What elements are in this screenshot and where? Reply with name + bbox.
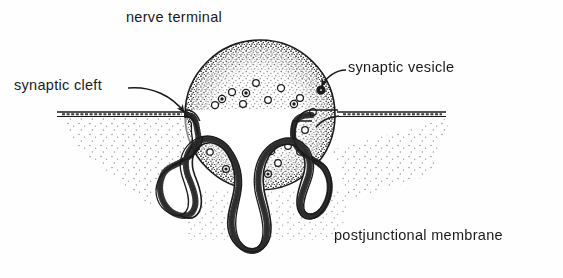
label-synaptic-vesicle: synaptic vesicle <box>348 60 454 75</box>
label-postjunctional-membrane: postjunctional membrane <box>334 228 503 243</box>
figure-canvas: nerve terminal synaptic cleft synaptic v… <box>0 0 563 278</box>
flat-membrane-right <box>337 112 446 117</box>
docked-vesicle <box>317 86 325 94</box>
label-nerve-terminal: nerve terminal <box>126 10 222 25</box>
label-synaptic-cleft: synaptic cleft <box>14 78 102 93</box>
flat-membrane-left <box>57 112 188 117</box>
synaptic-cleft-arrow <box>128 88 184 112</box>
